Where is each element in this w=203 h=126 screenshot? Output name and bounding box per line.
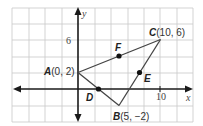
x-axis-left-arrow-icon	[13, 86, 21, 93]
y-axis-down-arrow-icon	[75, 114, 82, 122]
label-c: C(10, 6)	[149, 27, 185, 38]
y-axis-label: y	[81, 8, 87, 19]
x-axis	[13, 86, 193, 93]
label-f: F	[115, 42, 122, 53]
coordinate-plane: y x 10 6 A(0, 2) B(5, −2) C(10, 6) D E F	[0, 0, 203, 126]
point-f	[116, 53, 121, 58]
point-d	[96, 86, 101, 91]
label-a: A(0, 2)	[43, 66, 75, 77]
grid	[12, 8, 193, 122]
x-axis-label: x	[185, 92, 191, 103]
label-d: D	[86, 92, 93, 103]
x-tick-10: 10	[156, 91, 166, 102]
y-tick-6: 6	[66, 35, 71, 46]
label-b: B(5, −2)	[113, 111, 149, 122]
point-e	[137, 70, 142, 75]
label-e: E	[144, 73, 151, 84]
